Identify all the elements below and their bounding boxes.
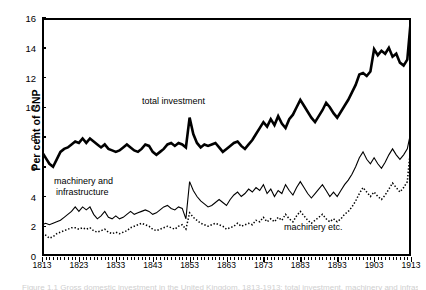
y-tick-2: 2 <box>0 221 36 232</box>
series-total-investment <box>42 18 411 167</box>
series-lines <box>42 18 411 256</box>
y-tick-16: 16 <box>0 13 36 24</box>
x-tick-1903: 1903 <box>354 260 394 270</box>
plot-area: total investmentmachinery andinfrastruct… <box>42 18 411 256</box>
annotation-total-investment: total investment <box>142 96 205 107</box>
x-tick-1833: 1833 <box>96 260 136 270</box>
x-tick-1823: 1823 <box>59 260 99 270</box>
y-tick-4: 4 <box>0 191 36 202</box>
y-tick-14: 14 <box>0 42 36 53</box>
x-tick-1863: 1863 <box>207 260 247 270</box>
x-tick-1813: 1813 <box>22 260 62 270</box>
annotation-machinery-and-infrastructure: machinery and <box>54 176 113 187</box>
y-tick-10: 10 <box>0 102 36 113</box>
x-tick-1853: 1853 <box>170 260 210 270</box>
x-tick-1843: 1843 <box>133 260 173 270</box>
annotation-machinery-and-infrastructure-2: infrastructure <box>56 187 109 198</box>
annotation-machinery-etc: machinery etc. <box>284 222 343 233</box>
x-tick-1883: 1883 <box>280 260 320 270</box>
x-tick-1873: 1873 <box>243 260 283 270</box>
figure-container: Per cent of GNP 0246810121416 1813182318… <box>0 0 426 290</box>
y-tick-6: 6 <box>0 161 36 172</box>
x-tick-1893: 1893 <box>317 260 357 270</box>
y-tick-8: 8 <box>0 132 36 143</box>
x-tick-1913: 1913 <box>391 260 426 270</box>
figure-caption: Figure 1.1 Gross domestic investment in … <box>22 283 418 290</box>
y-tick-12: 12 <box>0 72 36 83</box>
